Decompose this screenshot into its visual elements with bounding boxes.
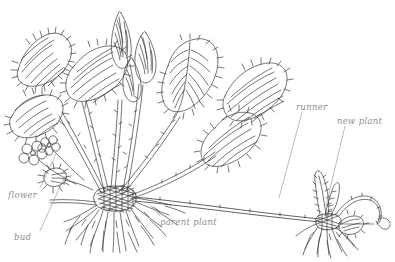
label-runner: runner xyxy=(296,102,327,112)
leaf-right-upper xyxy=(217,58,293,128)
bud xyxy=(38,163,93,193)
leader-new-plant xyxy=(326,126,345,206)
leaf-young-upright xyxy=(111,12,156,102)
leader-runner xyxy=(279,112,302,198)
new-plant xyxy=(296,171,390,258)
label-parent-plant: parent plant xyxy=(160,217,217,227)
label-bud: bud xyxy=(14,232,31,242)
label-new-plant: new plant xyxy=(337,116,382,126)
botanical-illustration: flower bud parent plant runner new plant xyxy=(0,0,395,262)
leader-bud xyxy=(40,178,64,231)
leader-lines xyxy=(40,112,345,231)
label-flower: flower xyxy=(8,190,37,200)
leaf-middle-outline xyxy=(157,34,224,119)
leaf-right-lower xyxy=(194,105,267,173)
